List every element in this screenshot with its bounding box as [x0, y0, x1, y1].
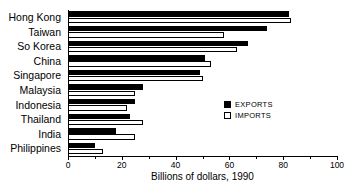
category-label: India [0, 127, 64, 142]
bar-exports [68, 143, 95, 148]
bar-imports [68, 120, 143, 125]
category-label: Indonesia [0, 98, 64, 113]
category-label: Philippines [0, 141, 64, 156]
category-label-column: Hong KongTaiwanSo KoreaChinaSingaporeMal… [0, 10, 64, 156]
bar-group [68, 98, 337, 113]
bar-exports [68, 26, 267, 31]
bar-imports [68, 18, 291, 23]
bar-group [68, 83, 337, 98]
bar-group [68, 127, 337, 142]
bar-chart: Hong KongTaiwanSo KoreaChinaSingaporeMal… [0, 0, 346, 194]
category-label: So Korea [0, 39, 64, 54]
bar-group [68, 10, 337, 25]
bar-group [68, 112, 337, 127]
legend-item-exports: EXPORTS [224, 99, 273, 110]
x-tick-label: 80 [271, 160, 295, 170]
x-tick-label: 0 [56, 160, 80, 170]
bar-exports [68, 128, 116, 133]
category-label: Malaysia [0, 83, 64, 98]
x-tick-minor [149, 156, 150, 159]
x-tick-minor [310, 156, 311, 159]
x-tick-label: 20 [110, 160, 134, 170]
x-tick-label: 100 [325, 160, 346, 170]
x-tick-minor [203, 156, 204, 159]
y-axis-spine [68, 10, 69, 157]
category-label: Hong Kong [0, 10, 64, 25]
x-tick-label: 40 [164, 160, 188, 170]
legend-item-imports: IMPORTS [224, 110, 273, 121]
bar-imports [68, 61, 211, 66]
legend-swatch-imports [224, 112, 231, 119]
bar-imports [68, 105, 127, 110]
bar-exports [68, 41, 248, 46]
legend-label-imports: IMPORTS [235, 111, 271, 120]
bar-imports [68, 149, 103, 154]
bar-exports [68, 70, 200, 75]
bar-imports [68, 76, 203, 81]
bar-group [68, 68, 337, 83]
x-tick-minor [95, 156, 96, 159]
bar-exports [68, 99, 135, 104]
x-tick-minor [256, 156, 257, 159]
bar-exports [68, 84, 143, 89]
bar-group [68, 25, 337, 40]
bar-group [68, 54, 337, 69]
bar-exports [68, 55, 205, 60]
bar-imports [68, 91, 135, 96]
x-axis-title: Billions of dollars, 1990 [68, 171, 337, 182]
plot-area [68, 10, 337, 156]
bar-group [68, 141, 337, 156]
x-tick-label: 60 [217, 160, 241, 170]
bar-imports [68, 32, 224, 37]
bar-imports [68, 134, 135, 139]
category-label: Thailand [0, 112, 64, 127]
bar-exports [68, 114, 130, 119]
legend-swatch-exports [224, 101, 231, 108]
legend-label-exports: EXPORTS [235, 100, 273, 109]
bar-imports [68, 47, 237, 52]
bar-group [68, 39, 337, 54]
category-label: China [0, 54, 64, 69]
bar-exports [68, 11, 289, 16]
legend: EXPORTS IMPORTS [224, 99, 273, 121]
category-label: Taiwan [0, 25, 64, 40]
category-label: Singapore [0, 68, 64, 83]
